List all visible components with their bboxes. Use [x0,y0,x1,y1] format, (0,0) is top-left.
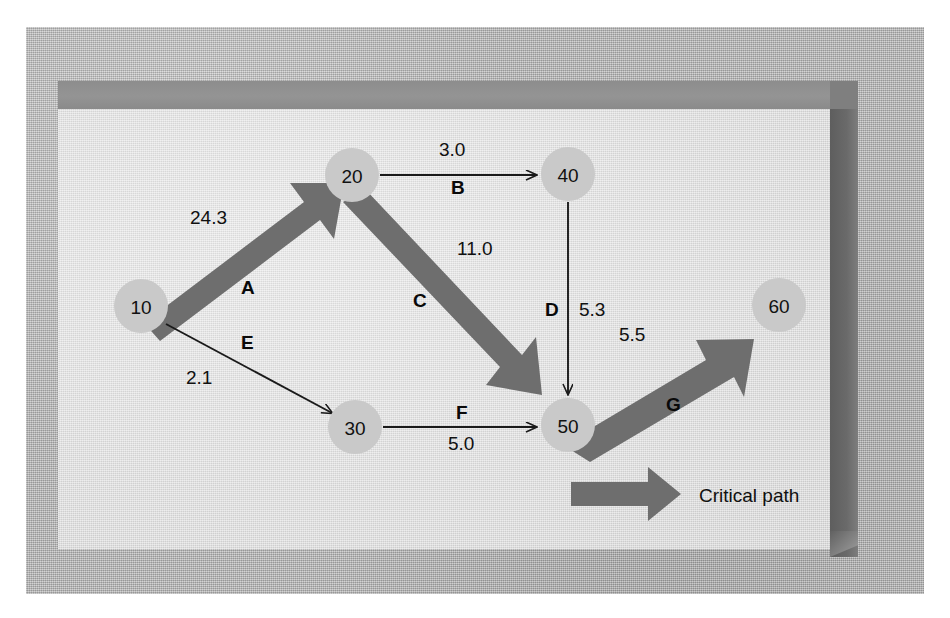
node-40-label: 40 [557,165,578,186]
node-20[interactable]: 20 [325,148,379,202]
node-60-label: 60 [768,296,789,317]
edge-G-activity: G [666,394,681,415]
node-40[interactable]: 40 [541,147,595,201]
node-50-label: 50 [557,416,578,437]
node-30[interactable]: 30 [328,400,382,454]
node-10[interactable]: 10 [114,279,168,333]
edge-A-activity: A [241,277,255,298]
edge-G-critical-arrow [563,339,754,462]
legend-critical-path-label: Critical path [699,485,799,506]
screenshot-root: 10 20 30 40 50 60 24.3 [0,0,950,618]
edge-B-duration: 3.0 [439,139,465,160]
node-20-label: 20 [341,166,362,187]
node-10-label: 10 [130,297,151,318]
slab-corner-top-right [830,81,858,109]
edge-B-activity: B [451,177,465,198]
legend-critical-path: Critical path [571,467,799,521]
edge-A-duration: 24.3 [190,207,227,228]
edge-F-activity: F [456,402,468,423]
node-50[interactable]: 50 [541,398,595,452]
edge-E-activity: E [241,332,254,353]
network-diagram: 10 20 30 40 50 60 24.3 [58,109,830,549]
edge-E-duration: 2.1 [186,367,212,388]
diagram-canvas: 10 20 30 40 50 60 24.3 [58,109,830,549]
edge-C-critical-arrow [343,189,542,395]
edge-F-duration: 5.0 [448,433,474,454]
node-60[interactable]: 60 [752,278,806,332]
legend-arrow-icon [571,467,681,521]
slab-top-bevel [58,81,830,109]
edge-D-duration: 5.3 [579,299,605,320]
slab-right-bevel [830,81,858,557]
edge-G-duration: 5.5 [619,324,645,345]
edge-C-activity: C [413,290,427,311]
edge-C-duration: 11.0 [457,238,493,259]
edge-D-activity: D [545,299,559,320]
edge-A-critical-arrow [144,183,344,341]
node-30-label: 30 [344,418,365,439]
